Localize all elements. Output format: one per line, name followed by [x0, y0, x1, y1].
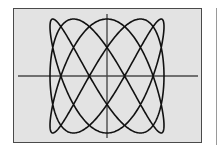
lissajous-plot	[0, 0, 218, 152]
